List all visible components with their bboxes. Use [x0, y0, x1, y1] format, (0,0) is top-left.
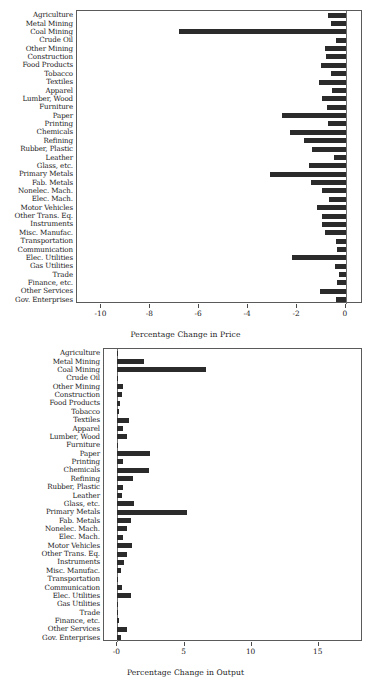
- x-tick-label: -10: [94, 309, 106, 318]
- bar: [117, 443, 118, 448]
- bar: [117, 560, 123, 565]
- bar: [117, 635, 120, 640]
- bar: [117, 359, 143, 364]
- bar: [337, 280, 346, 285]
- x-tick: [100, 304, 101, 308]
- bar: [117, 577, 118, 582]
- x-tick-label: -0: [113, 647, 120, 656]
- bar: [117, 593, 131, 598]
- bar: [321, 63, 345, 68]
- x-tick-label: -8: [146, 309, 153, 318]
- bar: [117, 434, 126, 439]
- bar: [117, 351, 118, 356]
- bar: [336, 239, 346, 244]
- zero-line: [346, 11, 347, 304]
- bar: [117, 518, 131, 523]
- bar: [334, 155, 346, 160]
- bar: [117, 526, 127, 531]
- bar: [322, 96, 345, 101]
- bar: [117, 367, 206, 372]
- x-axis-title: Percentage Change in Price: [0, 330, 371, 339]
- bar: [117, 451, 150, 456]
- price-chart-panel: AgricultureMetal MiningCoal MiningCrude …: [0, 0, 371, 340]
- x-tick: [345, 304, 346, 308]
- bar: [317, 205, 346, 210]
- bar: [335, 264, 346, 269]
- bar: [117, 426, 123, 431]
- bar: [117, 392, 121, 397]
- bar: [117, 510, 187, 515]
- bar: [339, 272, 346, 277]
- x-tick-label: -2: [292, 309, 299, 318]
- x-tick: [247, 304, 248, 308]
- bar: [117, 552, 126, 557]
- output-chart-panel: AgricultureMetal MiningCoal MiningCrude …: [0, 340, 371, 680]
- bar: [179, 29, 346, 34]
- bar: [117, 610, 118, 615]
- x-tick-label: -6: [195, 309, 202, 318]
- x-axis-title: Percentage Change in Output: [0, 668, 371, 677]
- bar: [117, 401, 120, 406]
- bar: [329, 197, 346, 202]
- bar: [322, 188, 345, 193]
- bar: [117, 459, 122, 464]
- bar: [331, 21, 346, 26]
- bar: [337, 247, 346, 252]
- bar: [117, 543, 132, 548]
- bar: [325, 46, 346, 51]
- bar: [328, 121, 346, 126]
- x-tick-label: -4: [244, 309, 251, 318]
- bar: [117, 384, 122, 389]
- bar: [117, 418, 129, 423]
- x-tick-label: 10: [246, 647, 255, 656]
- bar: [325, 230, 346, 235]
- bar: [117, 618, 119, 623]
- bar: [304, 138, 346, 143]
- bar: [336, 38, 346, 43]
- bar: [290, 130, 346, 135]
- bar: [117, 602, 118, 607]
- category-label: Gov. Enterprises: [15, 295, 73, 304]
- plot-frame: [103, 348, 362, 641]
- bar: [117, 568, 121, 573]
- x-tick: [149, 304, 150, 308]
- bar: [322, 214, 345, 219]
- bar: [117, 485, 122, 490]
- x-tick: [198, 304, 199, 308]
- bar: [117, 585, 122, 590]
- bar: [326, 54, 346, 59]
- bar: [117, 535, 122, 540]
- bar: [117, 476, 132, 481]
- x-tick: [296, 304, 297, 308]
- x-tick: [116, 642, 117, 646]
- x-tick: [251, 642, 252, 646]
- bar: [320, 289, 345, 294]
- bar: [117, 493, 122, 498]
- bar: [332, 88, 346, 93]
- category-label: Gov. Enterprises: [42, 633, 100, 642]
- bar: [312, 147, 346, 152]
- bar: [282, 113, 346, 118]
- bar: [309, 163, 346, 168]
- x-tick-label: 5: [181, 647, 186, 656]
- bar: [270, 172, 346, 177]
- bar: [117, 501, 134, 506]
- bar: [331, 71, 346, 76]
- plot-frame: [76, 10, 362, 303]
- bar: [336, 297, 346, 302]
- bar: [117, 627, 127, 632]
- bar: [292, 255, 346, 260]
- x-tick-label: 15: [313, 647, 322, 656]
- bar: [117, 409, 118, 414]
- x-tick: [318, 642, 319, 646]
- bar: [117, 376, 118, 381]
- bar: [311, 180, 346, 185]
- x-tick-label: 0: [343, 309, 348, 318]
- bar: [117, 468, 149, 473]
- bar: [319, 80, 346, 85]
- bar: [322, 222, 345, 227]
- bar: [327, 105, 346, 110]
- bar: [328, 13, 346, 18]
- x-tick: [184, 642, 185, 646]
